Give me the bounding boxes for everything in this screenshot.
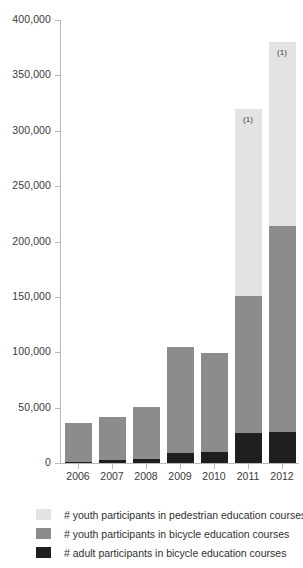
y-axis-tick-label: 50,000: [18, 401, 51, 413]
bar-segment-bicycle-2012[interactable]: [269, 226, 296, 432]
x-axis-tick: [180, 464, 181, 469]
bar-segment-bicycle-2011[interactable]: [235, 296, 262, 433]
legend-item[interactable]: # youth participants in pedestrian educa…: [36, 505, 296, 524]
bar-segment-adult-2007[interactable]: [99, 460, 126, 463]
bar-segment-bicycle-2007[interactable]: [99, 417, 126, 461]
x-axis-tick: [214, 464, 215, 469]
bar-segment-bicycle-2009[interactable]: [167, 347, 194, 453]
bar-segment-adult-2012[interactable]: [269, 432, 296, 463]
y-axis-tick-label: 200,000: [12, 235, 51, 247]
bar-segment-pedestrian-2012[interactable]: [269, 42, 296, 226]
bar-segment-bicycle-2006[interactable]: [65, 423, 92, 462]
stacked-bar-chart: 050,000100,000150,000200,000250,000300,0…: [0, 0, 303, 568]
legend-item[interactable]: # youth participants in bicycle educatio…: [36, 524, 296, 543]
legend-label: # adult participants in bicycle educatio…: [64, 547, 286, 559]
legend-swatch-icon: [36, 528, 51, 539]
bar-annotation-2012: (1): [269, 48, 296, 57]
y-axis-tick-label: 100,000: [12, 345, 51, 357]
x-axis-label-2012: 2012: [262, 470, 302, 482]
bar-2007[interactable]: [99, 417, 126, 464]
legend-swatch-icon: [36, 547, 51, 558]
x-axis-tick: [112, 464, 113, 469]
y-axis-tick-label: 0: [45, 456, 51, 468]
x-axis-tick: [146, 464, 147, 469]
bar-2011[interactable]: [235, 109, 262, 463]
bar-segment-adult-2008[interactable]: [133, 459, 160, 463]
y-axis-tick-label: 400,000: [12, 13, 51, 25]
bar-segment-adult-2006[interactable]: [65, 462, 92, 463]
bar-segment-bicycle-2008[interactable]: [133, 407, 160, 459]
bar-segment-adult-2011[interactable]: [235, 433, 262, 463]
bar-2012[interactable]: [269, 42, 296, 463]
y-axis-tick-label: 150,000: [12, 290, 51, 302]
bar-2009[interactable]: [167, 347, 194, 463]
chart-legend: # youth participants in pedestrian educa…: [36, 505, 296, 562]
legend-swatch-icon: [36, 509, 51, 520]
bar-2006[interactable]: [65, 423, 92, 463]
bar-segment-pedestrian-2011[interactable]: [235, 109, 262, 296]
x-axis-tick: [282, 464, 283, 469]
legend-label: # youth participants in pedestrian educa…: [64, 509, 303, 521]
x-axis-tick: [78, 464, 79, 469]
bar-segment-adult-2009[interactable]: [167, 453, 194, 463]
x-axis-tick: [248, 464, 249, 469]
y-axis-tick: [55, 463, 61, 464]
bar-2008[interactable]: [133, 407, 160, 463]
legend-item[interactable]: # adult participants in bicycle educatio…: [36, 543, 296, 562]
bar-segment-bicycle-2010[interactable]: [201, 353, 228, 452]
bar-segment-adult-2010[interactable]: [201, 452, 228, 463]
legend-label: # youth participants in bicycle educatio…: [64, 528, 289, 540]
y-axis-tick-label: 250,000: [12, 179, 51, 191]
bar-annotation-2011: (1): [235, 115, 262, 124]
y-axis-tick-label: 300,000: [12, 124, 51, 136]
bar-2010[interactable]: [201, 353, 228, 463]
y-axis-tick-label: 350,000: [12, 68, 51, 80]
bars-container: (1)(1): [61, 20, 299, 463]
